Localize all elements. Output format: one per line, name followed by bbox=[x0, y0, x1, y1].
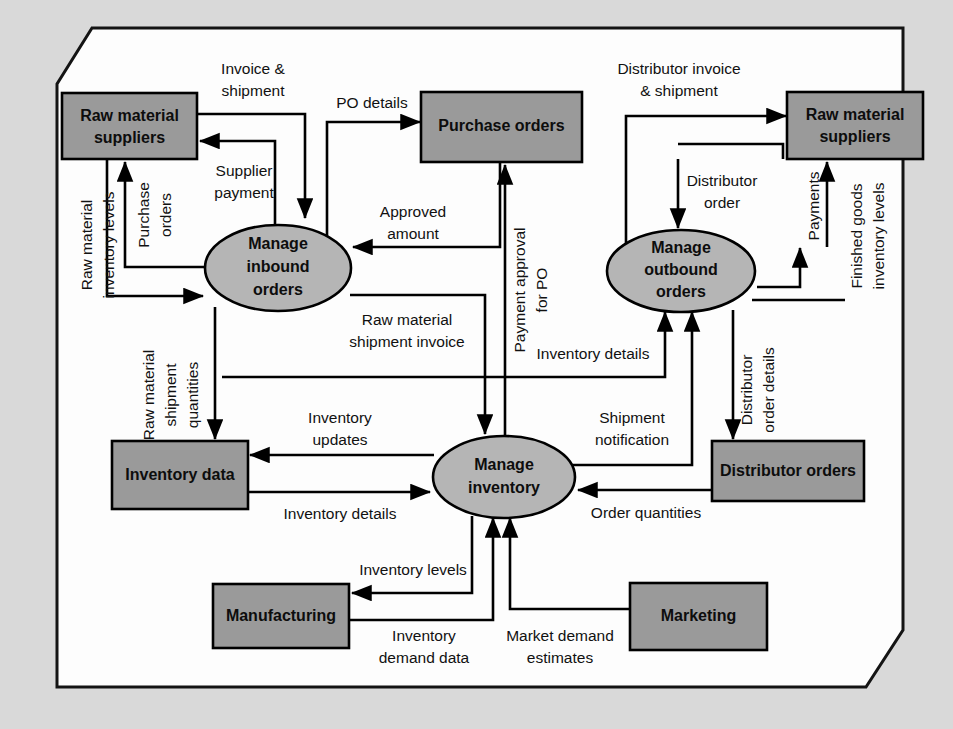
flow-label-distributor-order-details: order details bbox=[760, 347, 777, 433]
entity-label: Manufacturing bbox=[226, 607, 336, 624]
process-label: inventory bbox=[468, 479, 540, 496]
flow-label-supplier-payment: payment bbox=[214, 184, 274, 201]
flow-label-inventory-updates: updates bbox=[312, 431, 367, 448]
entity-label: Marketing bbox=[661, 607, 737, 624]
flow-label-raw-material-shipment-invoice: Raw material bbox=[362, 311, 452, 328]
entity-label: Raw material bbox=[80, 107, 179, 124]
entity-label: Purchase orders bbox=[438, 117, 564, 134]
flow-label-approved-amount: Approved bbox=[380, 203, 446, 220]
flow-label-finished-goods-inventory-levels: Finished goods bbox=[848, 183, 865, 288]
entity-label: Inventory data bbox=[125, 466, 234, 483]
process-label: inbound bbox=[246, 258, 309, 275]
flow-label-raw-material-inventory-levels: Raw material bbox=[78, 200, 95, 290]
flow-label-shipment-notification: notification bbox=[595, 431, 669, 448]
entity-label: suppliers bbox=[819, 128, 890, 145]
entity-label: suppliers bbox=[94, 129, 165, 146]
flow-label-inventory-details-left: Inventory details bbox=[284, 505, 397, 522]
flow-label-distributor-invoice-and-shipment: Distributor invoice bbox=[617, 60, 740, 77]
entity-label: Raw material bbox=[806, 106, 905, 123]
flow-label-payment-approval-for-po: Payment approval bbox=[511, 228, 528, 353]
flow-label-market-demand-estimates: Market demand bbox=[506, 627, 614, 644]
flow-label-raw-material-inventory-levels: inventory levels bbox=[100, 191, 117, 298]
flow-label-distributor-order-details: Distributor bbox=[738, 355, 755, 426]
flow-label-distributor-order: order bbox=[704, 194, 740, 211]
flow-label-finished-goods-inventory-levels: inventory levels bbox=[870, 182, 887, 289]
flow-label-distributor-invoice-and-shipment: & shipment bbox=[640, 82, 718, 99]
process-label: orders bbox=[253, 281, 303, 298]
entity-raw-material-suppliers-right[interactable]: Raw material suppliers bbox=[787, 92, 923, 159]
flow-label-invoice-and-shipment: shipment bbox=[222, 82, 286, 99]
flow-label-inventory-levels: Inventory levels bbox=[359, 561, 467, 578]
flow-label-market-demand-estimates: estimates bbox=[527, 649, 594, 666]
entity-label: Distributor orders bbox=[720, 462, 856, 479]
flow-label-inventory-demand-data: demand data bbox=[379, 649, 470, 666]
flow-label-invoice-and-shipment: Invoice & bbox=[221, 60, 285, 77]
diagram-canvas: Raw material suppliers Purchase orders R… bbox=[0, 0, 953, 729]
entity-purchase-orders[interactable]: Purchase orders bbox=[421, 92, 582, 162]
process-label: Manage bbox=[651, 239, 711, 256]
process-manage-inventory[interactable]: Manage inventory bbox=[433, 436, 575, 518]
process-manage-outbound-orders[interactable]: Manage outbound orders bbox=[607, 230, 755, 312]
flow-label-raw-material-shipment-quantities: quantities bbox=[184, 362, 201, 429]
flow-label-raw-material-shipment-quantities: shipment bbox=[162, 363, 179, 427]
entity-marketing[interactable]: Marketing bbox=[630, 583, 767, 650]
process-label: orders bbox=[656, 283, 706, 300]
process-manage-inbound-orders[interactable]: Manage inbound orders bbox=[205, 225, 351, 311]
process-label: outbound bbox=[644, 261, 718, 278]
flow-label-purchase-orders-left: orders bbox=[157, 193, 174, 237]
flow-label-inventory-updates: Inventory bbox=[308, 409, 372, 426]
flow-label-distributor-order: Distributor bbox=[687, 172, 758, 189]
flow-label-shipment-notification: Shipment bbox=[599, 409, 665, 426]
flow-label-purchase-orders-left: Purchase bbox=[135, 182, 152, 247]
entity-raw-material-suppliers-left[interactable]: Raw material suppliers bbox=[62, 93, 197, 159]
process-label: Manage bbox=[248, 235, 308, 252]
entity-inventory-data[interactable]: Inventory data bbox=[112, 441, 248, 509]
flow-label-payments: Payments bbox=[805, 171, 822, 240]
flow-label-po-details: PO details bbox=[336, 94, 408, 111]
flow-label-inventory-demand-data: Inventory bbox=[392, 627, 456, 644]
flow-label-approved-amount: amount bbox=[387, 225, 439, 242]
flow-label-payment-approval-for-po: for PO bbox=[533, 268, 550, 313]
flow-label-raw-material-shipment-quantities: Raw material bbox=[140, 350, 157, 440]
entity-manufacturing[interactable]: Manufacturing bbox=[213, 584, 349, 648]
flow-label-supplier-payment: Supplier bbox=[216, 162, 273, 179]
entity-distributor-orders[interactable]: Distributor orders bbox=[712, 441, 864, 501]
process-label: Manage bbox=[474, 456, 534, 473]
flow-label-order-quantities: Order quantities bbox=[591, 504, 702, 521]
flow-label-raw-material-shipment-invoice: shipment invoice bbox=[349, 333, 464, 350]
flow-label-inventory-details-top: Inventory details bbox=[537, 345, 650, 362]
